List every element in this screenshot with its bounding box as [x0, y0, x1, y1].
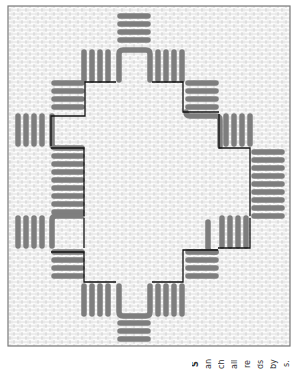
stitch-pattern-diagram [0, 0, 296, 352]
caption-fragment: all [231, 357, 244, 371]
caption-fragment: ds [257, 357, 270, 371]
rotated-caption: s. by ds re all ch an S [188, 357, 296, 371]
caption-fragment: an [205, 357, 218, 371]
caption-fragment: s. [283, 357, 296, 371]
caption-fragment: by [270, 357, 283, 371]
caption-fragment: ch [218, 357, 231, 371]
caption-fragment: S [192, 357, 205, 371]
caption-fragment: re [244, 357, 257, 371]
